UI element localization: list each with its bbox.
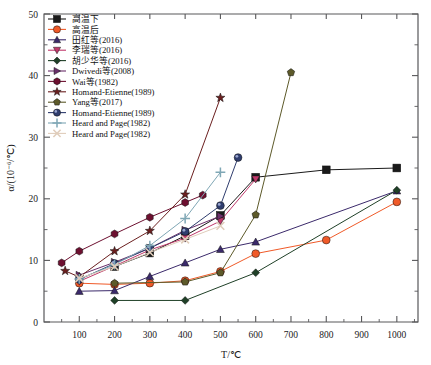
legend-item-0[interactable]: 高温下 (48, 13, 99, 24)
legend-item-2[interactable]: 田红等(2016) (48, 34, 122, 45)
chart-figure: 1002003004005006007008009001000T/℃010203… (0, 0, 431, 365)
marker-hexagon (58, 259, 65, 267)
marker-circle (146, 279, 154, 287)
marker-pentagon (111, 279, 118, 286)
marker-hexagon (146, 213, 153, 221)
marker-hexagon (54, 78, 60, 85)
legend-item-3[interactable]: 李瑞等(2016) (48, 44, 122, 55)
legend-label: Yang等(2017) (72, 96, 122, 107)
marker-triangle-right (54, 67, 61, 74)
marker-square (53, 15, 60, 22)
legend-item-11[interactable]: Heard and Page(1982) (48, 129, 150, 139)
marker-star (53, 87, 61, 95)
legend-item-9[interactable]: Homand-Etienne(1989) (48, 108, 155, 118)
y-tick-label: 30 (29, 133, 39, 143)
marker-plus (180, 214, 190, 224)
legend-label: 高温后 (72, 24, 99, 35)
marker-diamond (252, 269, 260, 277)
legend-item-5[interactable]: Dwivedi等(2008) (48, 65, 134, 76)
marker-triangle-up (181, 259, 189, 266)
marker-plus (216, 167, 226, 177)
x-tick-label: 700 (284, 330, 299, 340)
legend-label: 李瑞等(2016) (72, 44, 122, 55)
marker-pentagon (54, 99, 61, 106)
legend-label: Heard and Page(1982) (72, 118, 150, 128)
marker-circle-3d (234, 154, 242, 162)
marker-circle (393, 198, 401, 206)
marker-circle (252, 250, 260, 258)
marker-star (216, 93, 225, 102)
legend-item-1[interactable]: 高温后 (48, 24, 99, 35)
marker-triangle-up (146, 273, 154, 280)
marker-hexagon (182, 199, 189, 207)
marker-pentagon (252, 211, 259, 218)
legend-label: Homand-Etienne(1989) (72, 108, 155, 118)
marker-diamond (53, 57, 60, 64)
x-axis-label: T/℃ (221, 349, 241, 360)
legend-label: 胡少华等(2016) (72, 55, 131, 66)
x-tick-label: 100 (72, 330, 87, 340)
series-8 (111, 69, 295, 287)
marker-circle-3d (217, 202, 225, 210)
y-axis: 01020304050α/(10⁻⁶/℃) (5, 10, 418, 328)
series-line (79, 191, 397, 291)
legend-label: Wai等(1982) (72, 76, 118, 87)
x-tick-label: 900 (354, 330, 369, 340)
legend: 高温下高温后田红等(2016)李瑞等(2016)胡少华等(2016)Dwived… (48, 13, 155, 138)
y-tick-label: 0 (33, 318, 38, 328)
marker-hexagon (111, 230, 118, 238)
x-tick-label: 300 (143, 330, 158, 340)
legend-label: Homand-Etienne(1989) (72, 87, 155, 97)
chart-canvas: 1002003004005006007008009001000T/℃010203… (0, 0, 431, 365)
legend-item-8[interactable]: Yang等(2017) (48, 96, 122, 107)
series-2 (75, 187, 400, 295)
y-axis-label: α/(10⁻⁶/℃) (5, 145, 17, 192)
x-tick-label: 400 (178, 330, 193, 340)
marker-square (322, 166, 330, 174)
legend-label: 高温下 (72, 13, 99, 24)
legend-label: Dwivedi等(2008) (72, 65, 134, 76)
marker-plus (52, 118, 61, 127)
x-tick-label: 600 (249, 330, 264, 340)
y-tick-label: 40 (29, 71, 39, 81)
x-tick-label: 200 (107, 330, 122, 340)
legend-label: Heard and Page(1982) (72, 129, 150, 139)
legend-item-4[interactable]: 胡少华等(2016) (48, 55, 131, 66)
legend-label: 田红等(2016) (72, 34, 122, 45)
y-tick-label: 50 (29, 10, 39, 20)
marker-star (61, 266, 70, 275)
marker-pentagon (287, 69, 294, 76)
marker-diamond (181, 297, 189, 305)
marker-circle (322, 236, 330, 244)
y-tick-label: 20 (29, 194, 39, 204)
marker-diamond (111, 297, 119, 305)
marker-circle (53, 26, 60, 33)
marker-circle-3d (53, 109, 60, 116)
legend-item-7[interactable]: Homand-Etienne(1989) (48, 87, 155, 97)
y-tick-label: 10 (29, 256, 39, 266)
marker-triangle-up (252, 238, 260, 245)
legend-item-10[interactable]: Heard and Page(1982) (48, 118, 150, 128)
marker-circle-3d (181, 228, 189, 236)
legend-item-6[interactable]: Wai等(1982) (48, 76, 118, 87)
marker-square (393, 164, 401, 172)
x-tick-label: 800 (319, 330, 334, 340)
marker-hexagon (76, 247, 83, 255)
x-tick-label: 1000 (387, 330, 406, 340)
x-tick-label: 500 (213, 330, 228, 340)
